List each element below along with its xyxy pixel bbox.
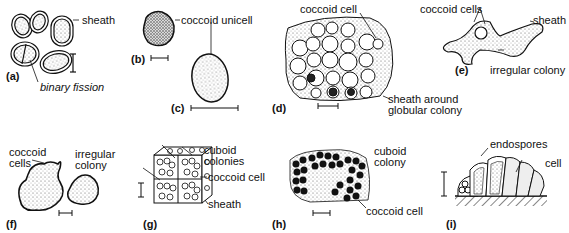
label-sheath-e: sheath bbox=[533, 14, 566, 26]
label-irregular-colony-e: irregular colony bbox=[490, 64, 565, 76]
panel-letter-f: (f) bbox=[6, 218, 17, 230]
figure-drawings bbox=[0, 0, 569, 233]
label-cells-f: cells bbox=[9, 157, 31, 169]
panel-b-drawing bbox=[144, 12, 181, 61]
label-coccoid-cells-e: coccoid cells bbox=[420, 3, 482, 15]
panel-letter-b: (b) bbox=[131, 53, 145, 65]
panel-i-drawing bbox=[441, 148, 547, 206]
panel-h-drawing bbox=[290, 150, 370, 216]
label-sheath-g: sheath bbox=[208, 198, 241, 210]
panel-d-drawing bbox=[285, 13, 392, 109]
panel-letter-c: (c) bbox=[171, 102, 184, 114]
panel-letter-g: (g) bbox=[143, 218, 157, 230]
panel-e-drawing bbox=[443, 8, 542, 64]
label-cell-i: cell bbox=[545, 157, 562, 169]
panel-letter-h: (h) bbox=[272, 218, 286, 230]
panel-letter-d: (d) bbox=[272, 102, 286, 114]
label-sheath-a: sheath bbox=[82, 14, 115, 26]
label-colony-h: colony bbox=[374, 156, 406, 168]
label-coccoid-cell-h: coccoid cell bbox=[366, 205, 423, 217]
panel-letter-e: (e) bbox=[455, 64, 468, 76]
label-endospores: endospores bbox=[490, 138, 548, 150]
label-coccoid-unicell: coccoid unicell bbox=[181, 14, 253, 26]
panel-g-drawing bbox=[138, 145, 212, 204]
panel-letter-a: (a) bbox=[6, 70, 19, 82]
label-colonies-g: colonies bbox=[204, 155, 244, 167]
panel-c-drawing bbox=[189, 22, 238, 111]
label-coccoid-cell-g: coccoid cell bbox=[208, 171, 265, 183]
panel-letter-i: (i) bbox=[446, 218, 456, 230]
label-globular-colony: globular colony bbox=[388, 104, 462, 116]
label-binary-fission: binary fission bbox=[40, 81, 104, 93]
label-coccoid-cell-d: coccoid cell bbox=[300, 3, 357, 15]
label-colony-f: colony bbox=[75, 159, 107, 171]
